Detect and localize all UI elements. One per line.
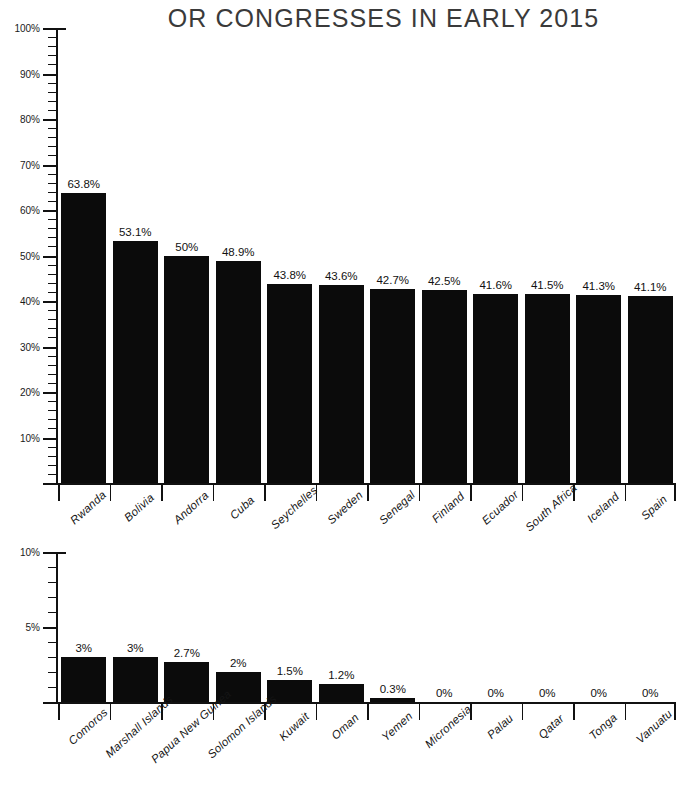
bar-slot[interactable]: 50% [161,28,213,483]
y-tick-minor [48,110,56,111]
bar-slot[interactable]: 43.6% [316,28,368,483]
y-tick-label: 30% [20,341,56,352]
y-tick-minor [48,146,56,147]
y-tick-minor [48,428,56,429]
bar[interactable] [61,657,106,702]
x-tick [213,485,265,501]
y-tick-minor [48,37,56,38]
y-tick-minor [48,265,56,266]
y-tick-label: 100% [14,23,56,34]
bar-slot[interactable]: 63.8% [58,28,110,483]
bar-slot[interactable]: 41.3% [573,28,625,483]
bar-value-label: 0% [419,687,471,699]
x-label-slot: Qatar [522,722,574,792]
bar-slot[interactable]: 3% [110,552,162,702]
bar[interactable] [267,284,312,483]
bar-value-label: 1.2% [316,669,368,681]
x-label-slot: Tonga [573,722,625,792]
y-tick-minor [48,283,56,284]
x-label-slot: Micronesia [419,722,471,792]
bar-slot[interactable]: 2% [213,552,265,702]
y-tick-minor [48,410,56,411]
bar[interactable] [525,294,570,483]
bar[interactable] [576,295,621,483]
bar[interactable] [319,285,364,483]
y-tick-label: 90% [20,68,56,79]
bar-value-label: 63.8% [58,178,110,190]
bar-slot[interactable]: 0% [522,552,574,702]
bar-value-label: 41.1% [625,281,677,293]
bar[interactable] [216,261,261,483]
bar-value-label: 53.1% [110,226,162,238]
y-tick-label: 80% [20,114,56,125]
y-tick-minor [48,337,56,338]
y-tick-minor [48,672,56,673]
y-tick-minor [48,46,56,47]
x-label-slot: Oman [316,722,368,792]
x-axis-labels-bottom: ComorosMarshall IslandsPapua New GuineaS… [58,722,676,792]
bar[interactable] [422,290,467,483]
bar-value-label: 41.3% [573,280,625,292]
bar[interactable] [473,294,518,483]
bar-slot[interactable]: 53.1% [110,28,162,483]
bar[interactable] [164,662,209,703]
bar-value-label: 2.7% [161,647,213,659]
bar-slot[interactable]: 48.9% [213,28,265,483]
x-label-slot: Papua New Guinea [161,722,213,792]
y-tick-minor [48,319,56,320]
bar-slot[interactable]: 3% [58,552,110,702]
bar-slot[interactable]: 1.2% [316,552,368,702]
y-tick-minor [48,155,56,156]
bar[interactable] [113,657,158,702]
bar-slot[interactable]: 1.5% [264,552,316,702]
bar-slot[interactable]: 0% [625,552,677,702]
bar[interactable] [370,289,415,483]
bar[interactable] [113,241,158,483]
bar[interactable] [61,193,106,483]
y-tick-label: 60% [20,205,56,216]
x-label-slot: Comoros [58,722,110,792]
bar-slot[interactable]: 42.5% [419,28,471,483]
y-tick-minor [48,83,56,84]
bar[interactable] [319,684,364,702]
bar-slot[interactable]: 42.7% [367,28,419,483]
y-tick-minor [48,192,56,193]
bar-value-label: 3% [58,642,110,654]
bar-slot[interactable]: 41.5% [522,28,574,483]
y-tick-minor [48,582,56,583]
bar-slot[interactable]: 41.6% [470,28,522,483]
y-tick-minor [48,419,56,420]
bar-slot[interactable]: 0% [419,552,471,702]
y-tick-minor [48,137,56,138]
y-tick-minor [48,612,56,613]
y-tick-minor [48,228,56,229]
bar-slot[interactable]: 0.3% [367,552,419,702]
bar[interactable] [628,296,673,483]
bar-value-label: 42.5% [419,275,471,287]
y-tick-minor [48,447,56,448]
bar-value-label: 0.3% [367,683,419,695]
bar-slot[interactable]: 0% [573,552,625,702]
bar-value-label: 0% [522,687,574,699]
y-tick-minor [48,274,56,275]
y-tick-minor [48,328,56,329]
x-label-slot: Palau [470,722,522,792]
y-tick-minor [48,474,56,475]
y-tick-label: 5% [26,622,56,633]
y-tick-label: 70% [20,159,56,170]
y-tick-label: 10% [20,432,56,443]
bar-slot[interactable]: 0% [470,552,522,702]
bar-value-label: 50% [161,241,213,253]
y-tick-minor [48,310,56,311]
y-tick-minor [48,55,56,56]
bar-slot[interactable]: 2.7% [161,552,213,702]
y-tick-minor [48,201,56,202]
bar-slot[interactable]: 43.8% [264,28,316,483]
y-tick-minor [48,401,56,402]
bar-slot[interactable]: 41.1% [625,28,677,483]
bar[interactable] [164,256,209,484]
y-tick-major [43,483,56,485]
x-tick-end [674,485,676,501]
bar-group-top: 63.8%53.1%50%48.9%43.8%43.6%42.7%42.5%41… [58,28,676,483]
y-tick-minor [48,465,56,466]
